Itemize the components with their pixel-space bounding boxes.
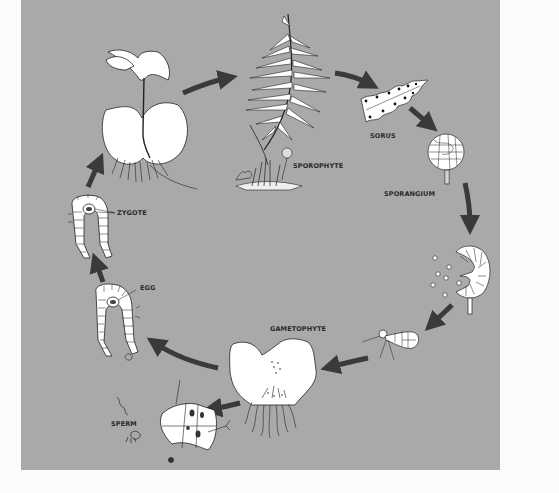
label-sporangium: SPORANGIUM — [384, 190, 435, 198]
arrow-release-to-germinating-spore — [432, 305, 452, 324]
arrow-gametophyte-to-antheridium — [212, 403, 240, 409]
fern-life-cycle-diagram — [0, 0, 559, 493]
arrow-sorus-to-sporangium — [410, 108, 430, 125]
arrow-sporangium-to-release — [465, 183, 470, 225]
arrow-young-sporophyte-to-sporophyte — [183, 78, 228, 93]
arrow-zygote-to-young-sporophyte — [88, 162, 99, 187]
label-gametophyte: GAMETOPHYTE — [270, 325, 326, 333]
arrow-archegonium-to-zygote — [96, 262, 103, 282]
gametophyte-illustration — [230, 339, 317, 438]
label-sporophyte: SPOROPHYTE — [293, 162, 343, 170]
germinating-spore-illustration — [362, 330, 419, 360]
label-zygote: ZYGOTE — [117, 209, 147, 217]
archegonium-zygote-illustration — [68, 194, 115, 258]
arrow-gametophyte-to-archegonium — [155, 343, 218, 368]
label-sorus: SORUS — [370, 132, 396, 140]
label-sperm: SPERM — [111, 420, 137, 428]
sporangium-releasing-spores-illustration — [431, 246, 490, 314]
arrow-germinating-spore-to-gametophyte — [330, 358, 368, 367]
arrow-sporophyte-to-sorus — [335, 73, 370, 84]
sporangium-illustration — [428, 134, 464, 184]
label-egg: EGG — [140, 284, 155, 292]
archegonium-egg-illustration — [96, 284, 140, 360]
young-sporophyte-illustration — [102, 50, 197, 189]
